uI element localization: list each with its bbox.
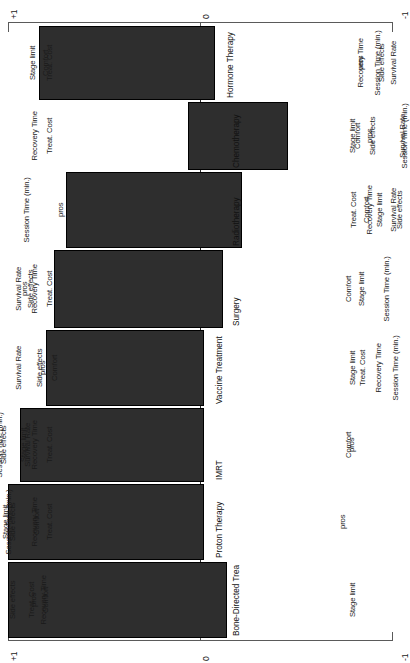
attribute-label: Treat. Cost xyxy=(46,45,54,81)
attribute-stack-right: Recovery TimeSession Time (min.)prosSide… xyxy=(336,22,381,104)
top-axis-tick-label-zero: 0 xyxy=(201,14,211,19)
top-axis-right-cap xyxy=(392,23,393,32)
bottom-axis-tick-label-zero: 0 xyxy=(201,656,211,661)
attribute-label: Survival Rate xyxy=(15,346,23,390)
attribute-label: Comfort xyxy=(345,276,353,302)
bar-radiotherapy xyxy=(66,172,243,248)
attribute-label: Treat. Cost xyxy=(46,271,54,307)
attribute-stack-right: Stage limitTreat. CostRecovery TimeSessi… xyxy=(336,326,372,410)
attribute-label: Stage limit xyxy=(349,583,357,617)
attribute-label: Stage limit xyxy=(349,351,357,385)
attribute-label: Recovery Time xyxy=(375,343,383,392)
series-label: IMRT xyxy=(215,460,224,480)
attribute-stack-right: pros xyxy=(336,480,345,564)
bottom-axis-tick-label-negative: -1 xyxy=(400,654,410,661)
series-label: Chemotherapy xyxy=(232,114,241,168)
attribute-label: Side effects xyxy=(378,44,386,82)
attribute-label: Recovery Time xyxy=(31,264,39,313)
attribute-label: pros xyxy=(357,56,365,70)
attribute-stack-left: Survival RateprosSide effectsComfort xyxy=(32,326,68,410)
attribute-label: pros xyxy=(366,129,374,143)
bottom-axis-tick-label-positive: +1 xyxy=(9,652,19,662)
series-label: Proton Therapy xyxy=(215,502,224,558)
attribute-label: Treat. Cost xyxy=(359,350,367,386)
attribute-label: Comfort xyxy=(363,197,371,223)
attribute-stack-left: Recovery TimeTreat. Cost xyxy=(50,98,68,174)
attribute-label: Comfort xyxy=(354,123,362,149)
attribute-label: Treat. Cost xyxy=(46,118,54,154)
attribute-label: Recovery Time xyxy=(31,420,39,469)
attribute-label: Stage limit xyxy=(358,272,366,306)
attribute-stack-right: Stage limit xyxy=(336,558,345,642)
series-label: Hormone Therapy xyxy=(226,32,235,98)
attribute-label: Recovery Time xyxy=(31,497,39,546)
attribute-label: Treat. Cost xyxy=(46,504,54,540)
attribute-stack-right: Stage limitComfortSide effectsprosSessio… xyxy=(336,98,390,174)
attribute-stack-left: Stage limitComfortTreat. Cost xyxy=(41,22,68,104)
series-label: Surgery xyxy=(232,297,241,326)
attribute-label: Survival Rate xyxy=(15,267,23,311)
attribute-stack-right: Comfortpros xyxy=(336,404,354,486)
attribute-stack-left: Survival RateStage limitSide effectsSess… xyxy=(5,480,68,564)
attribute-label: Stage limit xyxy=(376,193,384,227)
attribute-label: Side effects xyxy=(396,191,404,229)
attribute-stack-left: prosSurvival RateSide effectsRecovery Ti… xyxy=(23,246,68,332)
attribute-label: Session Time (min.) xyxy=(0,412,3,477)
attribute-label: Treat. Cost xyxy=(46,427,54,463)
attribute-stack-left: Session Time (min.)pros xyxy=(50,168,68,252)
series-label: Radiotherapy xyxy=(232,197,241,246)
bar-surgery xyxy=(54,250,223,328)
attribute-label: Treat. Cost xyxy=(350,192,358,228)
attribute-label: Session Time (min.) xyxy=(383,256,391,321)
attribute-label: Session Time (min.) xyxy=(23,177,31,242)
attribute-stack-left: Side effectsSession Time (min.)Stage lim… xyxy=(14,404,68,486)
top-axis-tick-label-positive: +1 xyxy=(9,10,19,20)
series-label: Bone-Directed Trea xyxy=(232,565,241,636)
bottom-axis-right-cap xyxy=(392,632,393,641)
attribute-label: Stage limit xyxy=(29,46,37,80)
attribute-label: Session Time (min.) xyxy=(5,489,13,554)
attribute-label: Session Time (min.) xyxy=(392,335,400,400)
bar-vaccine-treatment xyxy=(46,330,203,406)
top-axis-left-cap xyxy=(8,23,9,32)
attribute-label: Survival Rate xyxy=(390,41,398,85)
attribute-label: Comfort xyxy=(51,355,59,381)
attribute-stack-right: Treat. CostRecovery TimeComfortStage lim… xyxy=(336,168,390,252)
attribute-label: Side effects xyxy=(36,349,44,387)
attribute-stack-right: ComfortStage limitSession Time (min.) xyxy=(336,246,363,332)
attribute-label: pros xyxy=(348,438,356,452)
top-axis-tick-label-negative: -1 xyxy=(400,12,410,19)
attribute-stack-left: Survival RateSession Time (min.)Side eff… xyxy=(5,558,68,642)
attribute-label: Survival Rate xyxy=(399,114,407,158)
attribute-label: pros xyxy=(339,515,347,529)
attribute-label: Treat. Cost xyxy=(28,582,36,618)
attribute-label: Recovery Time xyxy=(40,575,48,624)
series-label: Vaccine Treatment xyxy=(215,336,224,404)
attribute-label: Side effects xyxy=(9,581,17,619)
attribute-label: pros xyxy=(57,203,65,217)
attribute-label: Recovery Time xyxy=(31,111,39,160)
